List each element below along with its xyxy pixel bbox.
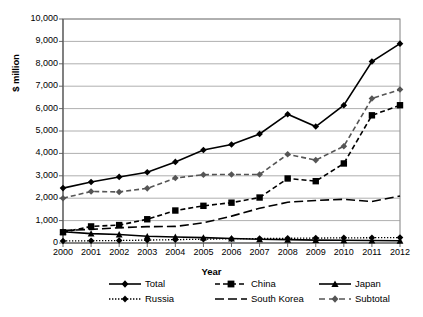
- legend-label-subtotal: Subtotal: [355, 293, 390, 304]
- legend-label-total: Total: [145, 278, 165, 289]
- legend-symbol-china: [214, 278, 248, 290]
- legend-label-russia: Russia: [145, 293, 174, 304]
- legend-symbol-subtotal: [318, 293, 352, 305]
- legend-row-1: Total China Japan: [108, 276, 408, 291]
- legend-label-south-korea: South Korea: [251, 293, 304, 304]
- data-point: [172, 207, 178, 213]
- chart-legend: Total China Japan: [108, 276, 408, 312]
- data-point: [313, 178, 319, 184]
- legend-item-japan[interactable]: Japan: [318, 276, 408, 291]
- data-point: [369, 112, 375, 118]
- legend-item-south-korea[interactable]: South Korea: [214, 291, 318, 306]
- legend-item-russia[interactable]: Russia: [108, 291, 214, 306]
- legend-symbol-japan: [318, 278, 352, 290]
- y-tick-label: 2,000: [10, 193, 58, 202]
- y-tick-label: 4,000: [10, 148, 58, 157]
- y-tick-label: 10,000: [10, 14, 58, 23]
- data-point: [256, 194, 262, 200]
- legend-label-japan: Japan: [355, 278, 381, 289]
- y-tick-label: 5,000: [10, 126, 58, 135]
- legend-symbol-south-korea: [214, 293, 248, 305]
- data-point: [116, 222, 122, 228]
- x-tick-label: 2012: [380, 247, 420, 257]
- y-axis-ticks: [59, 19, 63, 243]
- data-point: [341, 160, 347, 166]
- data-point: [397, 102, 403, 108]
- legend-item-subtotal[interactable]: Subtotal: [318, 291, 408, 306]
- legend-item-china[interactable]: China: [214, 276, 318, 291]
- legend-item-total[interactable]: Total: [108, 276, 214, 291]
- data-point: [228, 199, 234, 205]
- data-point: [144, 216, 150, 222]
- legend-label-china: China: [251, 278, 276, 289]
- legend-row-2: Russia South Korea Subtotal: [108, 291, 408, 306]
- y-axis-title: $ million: [10, 28, 21, 118]
- y-tick-label: 1,000: [10, 216, 58, 225]
- data-point: [200, 203, 206, 209]
- legend-symbol-total: [108, 278, 142, 290]
- data-point: [88, 223, 94, 229]
- y-tick-label: 3,000: [10, 171, 58, 180]
- legend-symbol-russia: [108, 293, 142, 305]
- y-tick-label: 0: [10, 238, 58, 247]
- data-point: [60, 229, 66, 235]
- data-point: [284, 175, 290, 181]
